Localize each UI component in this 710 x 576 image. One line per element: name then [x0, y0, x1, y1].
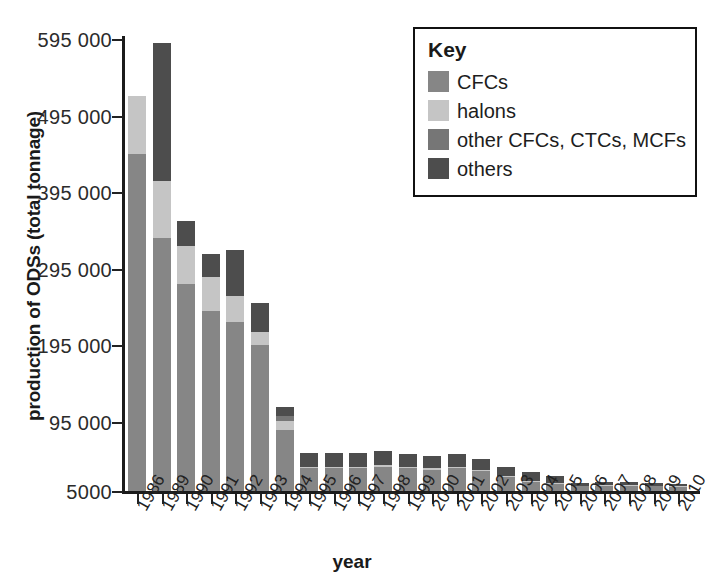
bar-segment	[472, 459, 490, 470]
bar-segment	[251, 345, 269, 491]
legend-swatch-icon	[428, 129, 449, 150]
bar-segment	[202, 311, 220, 491]
bar-segment	[374, 451, 392, 465]
bar-segment	[276, 407, 294, 416]
bar-segment	[128, 96, 146, 153]
bar-segment	[300, 453, 318, 467]
bar-segment	[153, 238, 171, 491]
legend-swatch-icon	[428, 158, 449, 179]
bar-segment	[177, 221, 195, 246]
bar-segment	[251, 332, 269, 346]
x-axis-title: year	[0, 551, 704, 573]
bar-1991[interactable]	[202, 254, 220, 491]
bar-segment	[153, 181, 171, 238]
bar-segment	[448, 454, 466, 466]
y-axis-tick-mark	[112, 422, 123, 424]
bar-1993[interactable]	[251, 303, 269, 491]
bar-segment	[226, 250, 244, 296]
legend-entry: others	[428, 154, 695, 183]
y-axis-tick-mark	[112, 39, 123, 41]
legend-entry: CFCs	[428, 67, 695, 96]
bar-1989[interactable]	[153, 43, 171, 491]
y-axis-tick-mark	[112, 116, 123, 118]
legend-entry-list: CFCshalonsother CFCs, CTCs, MCFsothers	[428, 67, 695, 183]
legend-entry-label: halons	[457, 100, 516, 122]
legend-title: Key	[428, 38, 695, 62]
bar-1986[interactable]	[128, 96, 146, 491]
legend-entry-label: others	[457, 158, 513, 180]
legend-entry: other CFCs, CTCs, MCFs	[428, 125, 695, 154]
bar-segment	[251, 303, 269, 332]
bar-1992[interactable]	[226, 250, 244, 491]
bar-segment	[153, 43, 171, 181]
bar-segment	[202, 277, 220, 311]
bar-segment	[399, 454, 417, 466]
y-axis-tick-mark	[112, 192, 123, 194]
bar-segment	[202, 254, 220, 277]
bar-segment	[325, 453, 343, 467]
bar-segment	[349, 453, 367, 467]
bar-1990[interactable]	[177, 221, 195, 491]
legend-entry: halons	[428, 96, 695, 125]
legend-box: Key CFCshalonsother CFCs, CTCs, MCFsothe…	[413, 27, 697, 197]
y-axis-tick-mark	[112, 269, 123, 271]
bar-segment	[423, 456, 441, 468]
legend-entry-label: CFCs	[457, 71, 508, 93]
bar-segment	[177, 246, 195, 284]
y-axis-tick-mark	[112, 491, 123, 493]
bar-segment	[226, 322, 244, 491]
bar-segment	[226, 296, 244, 323]
legend-swatch-icon	[428, 71, 449, 92]
legend-entry-label: other CFCs, CTCs, MCFs	[457, 129, 686, 151]
bar-segment	[177, 284, 195, 491]
bar-segment	[128, 154, 146, 491]
legend-swatch-icon	[428, 100, 449, 121]
bar-segment	[276, 421, 294, 430]
y-axis-tick-mark	[112, 345, 123, 347]
